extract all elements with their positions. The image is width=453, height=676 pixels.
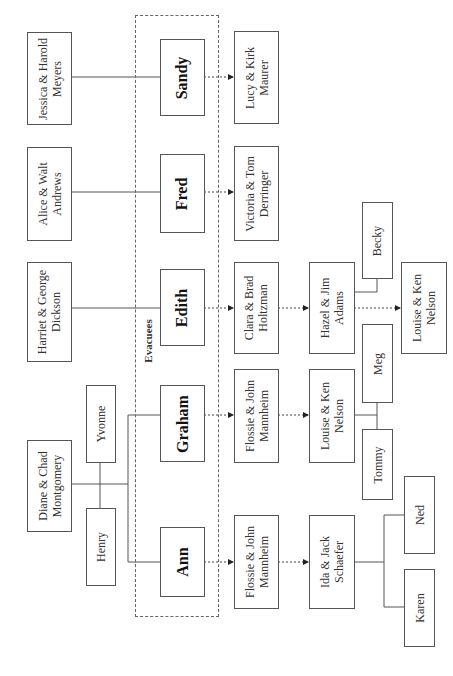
- host-label: Flossie & JohnMannheim: [243, 380, 271, 452]
- parent-box-andrews: Alice & WaltAndrews: [27, 147, 72, 241]
- sibling-box-henry: Henry: [86, 508, 116, 586]
- host-label: Victoria & TomDerringer: [243, 156, 271, 232]
- evacuee-box-graham: Graham: [160, 385, 205, 462]
- host-box-holtzman: Clara & BradHoltzman: [234, 262, 279, 354]
- host-name-line1: Flossie & John: [243, 380, 257, 452]
- evacuee-box-ann: Ann: [160, 527, 205, 597]
- parent-label: Diane & ChadMontgomery: [36, 451, 64, 520]
- parent-name-line1: Jessica & Harold: [36, 38, 50, 120]
- host-name-line1: Clara & Brad: [243, 276, 257, 341]
- sibling-label: Henry: [94, 532, 108, 562]
- host-name-line2: Schaefer: [332, 541, 346, 583]
- parent-box-montgomery: Diane & ChadMontgomery: [27, 440, 72, 532]
- host-name-line2: Adams: [332, 291, 346, 325]
- evacuee-label: Fred: [176, 177, 190, 210]
- host-label: Ida & JackSchaefer: [318, 536, 346, 588]
- host-label: Clara & BradHoltzman: [243, 276, 271, 341]
- host-child-label: Ned: [413, 505, 427, 525]
- evacuee-box-sandy: Sandy: [160, 39, 205, 116]
- host-name-line1: Flossie & John: [243, 526, 257, 598]
- evacuee-placement-diagram: Evacuees Jessica & HaroldMeyers Alice & …: [0, 0, 453, 676]
- host-name-line2: Maurer: [257, 60, 271, 95]
- host-name-line2: Nelson: [424, 291, 438, 325]
- host-child-box-becky: Becky: [362, 202, 393, 279]
- evacuees-group-label: Evacuees: [142, 311, 154, 371]
- evacuee-label: Sandy: [175, 56, 189, 99]
- host-box-maurer: Lucy & KirkMaurer: [234, 31, 279, 124]
- evacuee-box-edith: Edith: [160, 269, 205, 346]
- host-name-line2: Derringer: [257, 170, 271, 217]
- host-label: Lucy & KirkMaurer: [243, 47, 271, 109]
- host-box-nelson-edith: Louise & KenNelson: [401, 262, 447, 354]
- evacuee-label: Graham: [176, 395, 190, 453]
- host-name-line1: Victoria & Tom: [243, 156, 257, 232]
- host-child-box-meg: Meg: [362, 324, 393, 403]
- host-child-label: Becky: [371, 225, 385, 256]
- host-child-box-karen: Karen: [404, 569, 435, 647]
- host-box-derringer: Victoria & TomDerringer: [234, 146, 279, 241]
- host-box-mannheim-graham: Flossie & JohnMannheim: [234, 369, 279, 463]
- host-name-line2: Mannheim: [257, 390, 271, 442]
- host-name-line1: Hazel & Jim: [318, 278, 332, 339]
- evacuee-label: Edith: [176, 288, 190, 326]
- host-child-label: Karen: [413, 593, 427, 622]
- sibling-label: Yvonne: [94, 406, 108, 443]
- sibling-box-yvonne: Yvonne: [86, 385, 116, 463]
- host-name-line1: Louise & Ken: [318, 382, 332, 450]
- parent-name-line2: Andrews: [50, 172, 64, 215]
- parent-box-dickson: Harriet & GeorgeDickson: [27, 262, 72, 362]
- parent-name-line2: Dickson: [50, 292, 64, 332]
- host-label: Hazel & JimAdams: [318, 278, 346, 339]
- host-name-line1: Ida & Jack: [318, 536, 332, 588]
- parent-name-line2: Montgomery: [50, 455, 64, 518]
- host-name-line1: Lucy & Kirk: [243, 47, 257, 109]
- host-child-box-tommy: Tommy: [362, 429, 393, 500]
- host-name-line2: Holtzman: [257, 284, 271, 331]
- host-name-line2: Mannheim: [257, 536, 271, 588]
- host-box-schaefer: Ida & JackSchaefer: [309, 515, 355, 609]
- host-box-nelson: Louise & KenNelson: [309, 369, 355, 463]
- parent-label: Jessica & HaroldMeyers: [36, 38, 64, 120]
- parent-name-line2: Meyers: [50, 61, 64, 97]
- parent-label: Alice & WaltAndrews: [36, 162, 64, 225]
- host-box-mannheim-ann: Flossie & JohnMannheim: [234, 515, 279, 609]
- host-label: Louise & KenNelson: [410, 274, 438, 342]
- host-child-label: Meg: [371, 353, 385, 375]
- evacuee-box-fred: Fred: [160, 154, 205, 233]
- host-label: Louise & KenNelson: [318, 382, 346, 450]
- host-name-line1: Louise & Ken: [410, 274, 424, 342]
- host-box-adams: Hazel & JimAdams: [309, 262, 355, 354]
- parent-label: Harriet & GeorgeDickson: [36, 270, 64, 354]
- parent-name-line1: Alice & Walt: [36, 162, 50, 225]
- parent-name-line1: Diane & Chad: [36, 451, 50, 520]
- host-child-box-ned: Ned: [404, 476, 435, 554]
- host-label: Flossie & JohnMannheim: [243, 526, 271, 598]
- parent-name-line1: Harriet & George: [36, 270, 50, 354]
- host-name-line2: Nelson: [332, 399, 346, 433]
- parent-box-meyers: Jessica & HaroldMeyers: [27, 32, 72, 125]
- host-child-label: Tommy: [371, 446, 385, 483]
- evacuee-label: Ann: [175, 547, 189, 576]
